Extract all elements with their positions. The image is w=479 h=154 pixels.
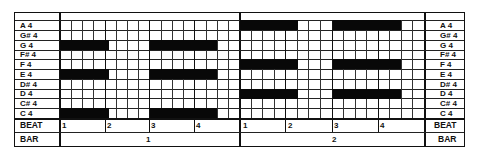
beat-number: 2 — [288, 121, 292, 130]
beat-number: 3 — [334, 121, 338, 130]
grid-col — [116, 20, 117, 118]
pitch-label-right: D 4 — [440, 89, 452, 98]
grid-col — [251, 20, 252, 118]
pitch-label-right: A 4 — [440, 21, 452, 30]
grid-col — [297, 20, 298, 118]
note-bar1-g4-b — [150, 40, 217, 50]
note-bar2-d4-a — [240, 89, 298, 99]
note-bar2-f4-b — [333, 59, 401, 69]
beat-number: 1 — [243, 121, 247, 130]
grid-bottom-line — [15, 118, 464, 120]
bar-number: 2 — [332, 135, 336, 144]
beat-row-label-right: BEAT — [434, 121, 457, 130]
grid-col — [343, 20, 344, 118]
beat-number: 1 — [62, 121, 66, 130]
grid-col — [389, 20, 390, 118]
note-bar2-d4-b — [333, 89, 401, 99]
beat-number: 4 — [196, 121, 200, 130]
grid-col — [320, 20, 321, 118]
pitch-label-right: E 4 — [440, 70, 452, 79]
grid-col — [138, 20, 139, 118]
pitch-label-left: F 4 — [20, 60, 32, 69]
pitch-label-left: C# 4 — [20, 99, 37, 108]
pitch-label-right: C 4 — [440, 109, 452, 118]
pitch-label-right: D# 4 — [440, 80, 457, 89]
beat-line — [285, 20, 286, 132]
grid-col — [127, 20, 128, 118]
beat-line — [332, 20, 333, 132]
pitch-label-left: G# 4 — [20, 31, 37, 40]
pitch-label-left: F# 4 — [20, 50, 36, 59]
grid-col — [274, 20, 275, 118]
beat-number: 4 — [380, 121, 384, 130]
note-bar1-e4-a — [60, 69, 109, 79]
pitch-label-right: G 4 — [440, 41, 453, 50]
grid-col — [412, 20, 413, 118]
pitch-label-left: A 4 — [20, 21, 32, 30]
pitch-label-left: C 4 — [20, 109, 32, 118]
pitch-label-right: F 4 — [440, 60, 452, 69]
note-bar1-c4-b — [150, 108, 217, 118]
pitch-label-left: E 4 — [20, 70, 32, 79]
pitch-label-right: G# 4 — [440, 31, 457, 40]
note-bar2-a4-a — [240, 20, 298, 30]
pitch-label-left: D# 4 — [20, 80, 37, 89]
grid-col — [217, 20, 218, 118]
pitch-label-right: F# 4 — [440, 50, 456, 59]
pitch-label-left: D 4 — [20, 89, 32, 98]
beat-number: 3 — [151, 121, 155, 130]
bar-row-label-left: BAR — [20, 135, 38, 144]
note-bar1-c4-a — [60, 108, 109, 118]
beat-number: 2 — [107, 121, 111, 130]
beat-line — [378, 20, 379, 132]
bar-row-label-right: BAR — [438, 135, 456, 144]
pitch-label-left: G 4 — [20, 41, 33, 50]
grid-col — [355, 20, 356, 118]
grid-col — [228, 20, 229, 118]
grid-col — [262, 20, 263, 118]
beat-row-label-left: BEAT — [20, 121, 43, 130]
pitch-label-right: C# 4 — [440, 99, 457, 108]
piano-roll-grid: A 4 G# 4 G 4 F# 4 F 4 E 4 D# 4 D 4 C# 4 … — [14, 12, 465, 147]
grid-col — [366, 20, 367, 118]
grid-col — [308, 20, 309, 118]
note-bar2-f4-a — [240, 59, 298, 69]
note-bar2-a4-b — [333, 20, 401, 30]
bar-number: 1 — [146, 135, 150, 144]
beat-row-bottom-line — [15, 132, 464, 133]
note-bar1-g4-a — [60, 40, 109, 50]
note-bar1-e4-b — [150, 69, 217, 79]
grid-col — [401, 20, 402, 118]
